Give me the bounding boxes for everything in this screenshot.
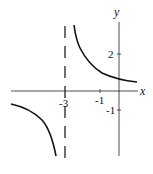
y-tick-label-neg1: -1 (106, 104, 115, 116)
curve-right-branch (74, 25, 137, 82)
x-tick-label-neg3: -3 (59, 97, 69, 109)
y-tick-label-2: 2 (108, 48, 114, 60)
y-axis-label: y (113, 5, 120, 19)
x-tick-label-neg1: -1 (95, 94, 104, 106)
curve-left-branch (11, 104, 56, 156)
x-axis-label: x (139, 84, 146, 98)
graph: y x -3 -1 2 -1 (0, 0, 153, 174)
